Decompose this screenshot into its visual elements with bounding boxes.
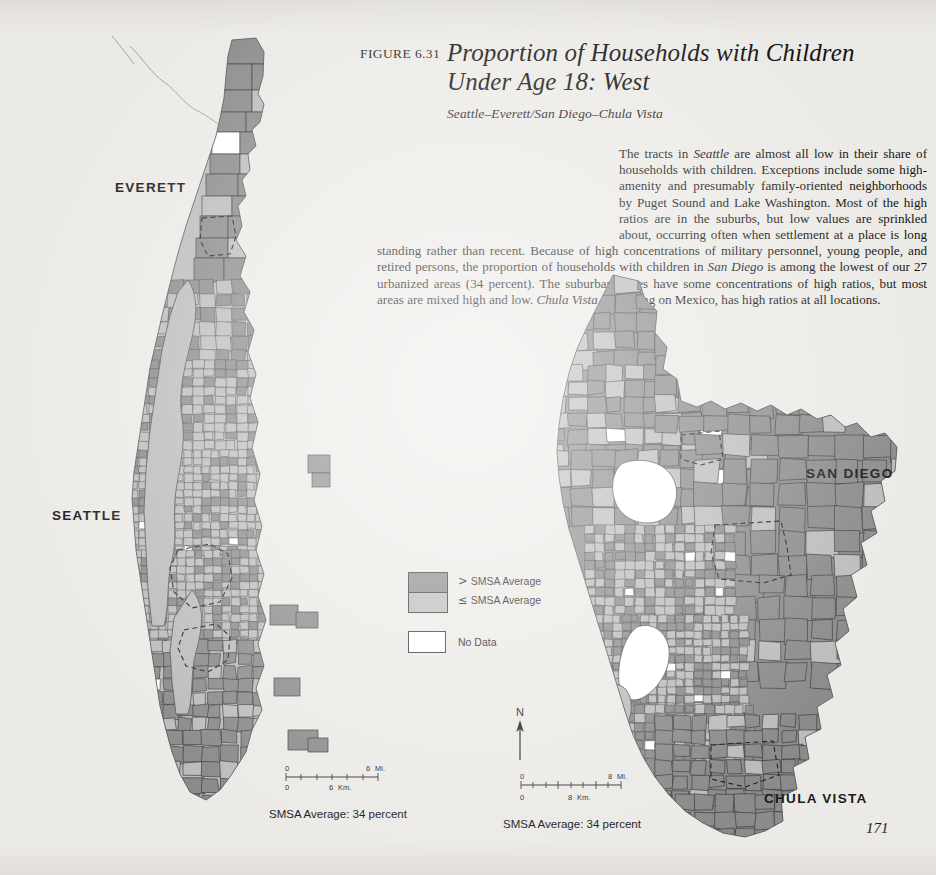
census-tract: [200, 294, 216, 309]
census-tract: [123, 590, 133, 599]
census-tract: [864, 598, 891, 620]
legend-row-no-data: No Data: [408, 631, 568, 653]
census-tract: [726, 354, 748, 375]
census-tract: [682, 365, 700, 384]
census-tract: [685, 663, 695, 672]
census-tract: [695, 579, 705, 588]
census-tract: [774, 335, 803, 352]
census-tract: [782, 730, 797, 743]
census-tract: [673, 744, 690, 756]
census-tract: [211, 482, 220, 489]
census-tract: [164, 777, 185, 797]
census-tract: [571, 470, 592, 487]
census-tract: [725, 561, 737, 569]
census-tract: [226, 360, 237, 371]
census-tract: [123, 606, 134, 613]
census-tract: [728, 374, 752, 391]
legend-row-below: ≤SMSA Average: [408, 591, 568, 610]
census-tract: [123, 582, 133, 590]
census-tract: [132, 638, 140, 648]
census-tract: [548, 331, 569, 351]
census-tract: [258, 761, 280, 776]
census-tract: [126, 386, 138, 397]
census-tract: [655, 551, 667, 560]
census-tract: [265, 546, 275, 553]
census-tract: [675, 524, 685, 533]
census-tract: [265, 530, 276, 539]
census-tract: [223, 653, 236, 665]
census-tract: [604, 750, 616, 758]
census-tract: [114, 606, 122, 614]
census-tract: [695, 552, 703, 563]
census-tract: [837, 662, 858, 689]
census-tract: [112, 482, 123, 490]
census-tract: [658, 294, 683, 317]
census-tract: [231, 589, 241, 596]
census-tract: [703, 615, 712, 623]
census-tract: [131, 582, 140, 590]
census-tract: [238, 522, 248, 531]
census-tract: [121, 474, 132, 482]
census-tract: [593, 295, 615, 315]
census-tract: [548, 450, 568, 467]
census-tract: [182, 423, 193, 431]
census-tract: [549, 429, 565, 441]
census-tract: [228, 514, 237, 522]
census-tract: [213, 566, 222, 574]
scale-bar-seattle: 0 6 Mi. 0 6 Km.: [283, 762, 393, 794]
census-tract: [120, 322, 138, 334]
census-tract: [690, 760, 706, 775]
census-tract: [605, 714, 616, 724]
census-tract: [730, 695, 741, 702]
census-tract: [675, 552, 685, 561]
census-tract: [229, 530, 238, 538]
census-tract: [605, 543, 615, 551]
census-tract: [681, 332, 700, 353]
census-tract: [127, 729, 144, 746]
census-tract: [570, 275, 596, 295]
census-tract: [658, 615, 668, 623]
census-tract: [548, 350, 574, 371]
census-tract: [248, 387, 260, 397]
census-tract: [145, 761, 163, 780]
census-tract: [595, 695, 606, 703]
census-tract: [213, 573, 223, 580]
census-tract: [605, 732, 614, 740]
census-tract: [862, 575, 886, 594]
census-tract: [604, 687, 613, 697]
census-tract: [184, 450, 192, 459]
census-tract: [774, 812, 798, 832]
census-tract: [120, 505, 130, 514]
census-tract: [635, 561, 646, 571]
census-tract: [745, 714, 760, 728]
legend-label-no-data: No Data: [458, 631, 497, 653]
scale-seattle-km-max: 6: [329, 783, 333, 792]
census-tract: [182, 404, 194, 414]
emphasis-place-name: San Diego: [708, 259, 764, 274]
census-tract: [890, 482, 918, 506]
census-tract: [605, 606, 614, 616]
census-tract: [675, 662, 684, 669]
census-tract: [723, 459, 747, 487]
census-tract: [112, 538, 119, 547]
census-tract: [114, 590, 124, 597]
census-tract: [220, 466, 230, 474]
census-tract: [211, 458, 221, 467]
census-tract: [675, 639, 685, 648]
census-tract: [635, 525, 645, 535]
census-tract: [702, 334, 732, 355]
census-tract: [238, 705, 254, 718]
census-tract: [595, 687, 606, 694]
census-tract: [822, 334, 846, 359]
legend-swatch-no-data: [408, 631, 446, 653]
census-tract: [222, 598, 230, 606]
census-tract: [672, 776, 688, 789]
census-tract: [823, 394, 844, 418]
caption-smsa-average-seattle: SMSA Average: 34 percent: [269, 808, 407, 820]
city-label-seattle: SEATTLE: [52, 508, 122, 523]
census-tract: [685, 570, 696, 577]
census-tract: [550, 507, 570, 527]
census-tract: [202, 498, 213, 506]
census-tract: [258, 423, 268, 431]
census-tract: [116, 414, 126, 421]
